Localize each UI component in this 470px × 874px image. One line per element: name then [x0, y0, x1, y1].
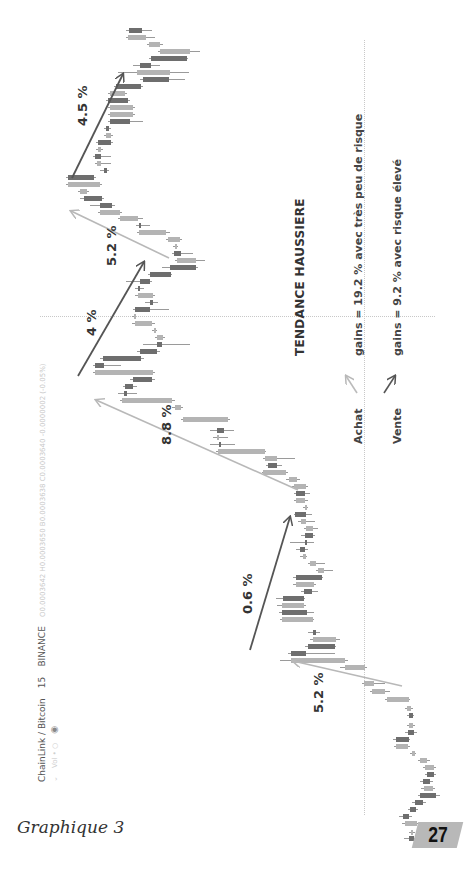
ohlc-values: O0.0003642 H0.0003650 B0.0003638 C0.0003… [39, 363, 47, 617]
achat-arrow-3 [71, 211, 169, 258]
legend-achat-text: gains = 19.2 % avec très peu de risque [352, 114, 365, 356]
tradingview-header: ChainLink / Bitcoin 15 BINANCE O0.000364… [30, 363, 49, 782]
legend-vente-label: Vente [391, 408, 404, 444]
move-label-1: 5.2 % [311, 672, 326, 713]
move-label-5: 5.2 % [104, 225, 119, 266]
interval: 15 [37, 677, 47, 688]
legend-achat-label: Achat [352, 408, 365, 444]
vente-arrow-1 [250, 517, 290, 650]
page-number: 27 [422, 822, 454, 848]
legend-vente-arrow-icon [384, 376, 395, 393]
exchange: BINANCE [37, 626, 47, 666]
volume-indicator: Vol • ○ [51, 743, 59, 768]
move-label-2: 0.6 % [240, 573, 255, 614]
eye-icon: ◉ [49, 726, 59, 734]
trend-title: TENDANCE HAUSSIERE [293, 198, 307, 356]
move-label-4: 4 % [84, 309, 99, 336]
chevron-down-icon: ⌄ [51, 776, 59, 782]
legend-vente-text: gains = 9.2 % avec risque élevé [391, 159, 404, 356]
achat-arrow-2 [96, 400, 298, 490]
figure-caption: Graphique 3 [17, 817, 124, 837]
legend-achat-arrow-icon [346, 376, 357, 393]
move-label-6: 4.5 % [75, 85, 90, 126]
move-label-3: 8.8 % [159, 404, 174, 445]
tradingview-subheader: ⌄ Vol • ○ ◉ [42, 726, 61, 782]
achat-arrow-1 [293, 661, 402, 686]
